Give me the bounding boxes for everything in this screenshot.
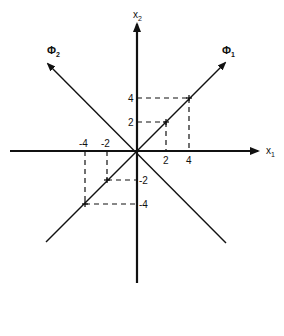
- phi1-label: Φ1: [222, 44, 235, 58]
- point-neg4-neg4: [82, 201, 88, 207]
- principal-axes-diagram: -4 -2 2 4 4 2 -2 -4 x2 x1 Φ2 Φ1: [0, 0, 284, 336]
- x2-axis-label: x2: [133, 9, 142, 22]
- tick-x2-neg4: -4: [139, 199, 148, 210]
- x1-axis-label: x1: [266, 145, 275, 158]
- tick-x1-2: 2: [163, 155, 169, 166]
- phi2-label: Φ2: [47, 44, 60, 58]
- tick-x1-neg2: -2: [101, 138, 110, 149]
- tick-x1-neg4: -4: [79, 138, 88, 149]
- tick-x1-4: 4: [186, 155, 192, 166]
- tick-x2-neg2: -2: [139, 175, 148, 186]
- point-4-4: [186, 95, 192, 101]
- tick-x2-2: 2: [128, 117, 134, 128]
- tick-x2-4: 4: [128, 93, 134, 104]
- point-neg2-neg2: [104, 177, 110, 183]
